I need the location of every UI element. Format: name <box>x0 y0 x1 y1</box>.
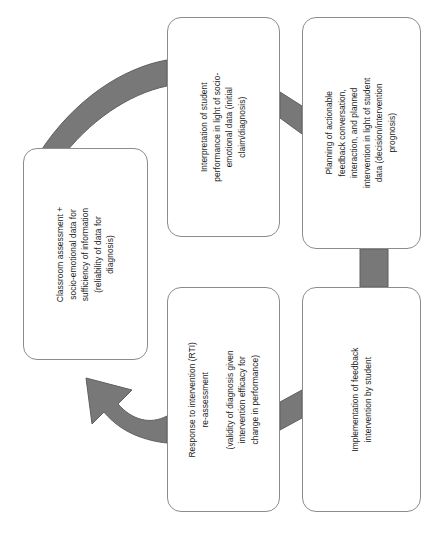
node-implementation-label: Implementation of feedback intervention … <box>349 347 374 451</box>
connector-implementation-to-rti <box>280 390 302 430</box>
node-response-to-intervention-label: Response to intervention (RTI) re-assess… <box>186 342 262 457</box>
connector-classroom-to-interpretation <box>40 60 167 160</box>
node-classroom-assessment[interactable]: Classroom assessment + socio-emotional d… <box>23 148 148 360</box>
node-response-to-intervention[interactable]: Response to intervention (RTI) re-assess… <box>167 287 280 512</box>
connector-interpretation-to-planning <box>280 92 302 134</box>
node-planning-label: Planning of actionable feedback conversa… <box>324 78 400 189</box>
node-implementation[interactable]: Implementation of feedback intervention … <box>302 287 421 512</box>
connector-rti-to-classroom-arrow <box>86 378 167 443</box>
diagram-canvas: Classroom assessment + socio-emotional d… <box>0 0 439 548</box>
node-classroom-assessment-label: Classroom assessment + socio-emotional d… <box>54 206 117 301</box>
node-interpretation-label: Interpretation of student performance in… <box>198 72 248 181</box>
node-planning[interactable]: Planning of actionable feedback conversa… <box>302 17 421 249</box>
connector-planning-to-implementation <box>360 249 388 287</box>
node-interpretation[interactable]: Interpretation of student performance in… <box>167 17 280 237</box>
